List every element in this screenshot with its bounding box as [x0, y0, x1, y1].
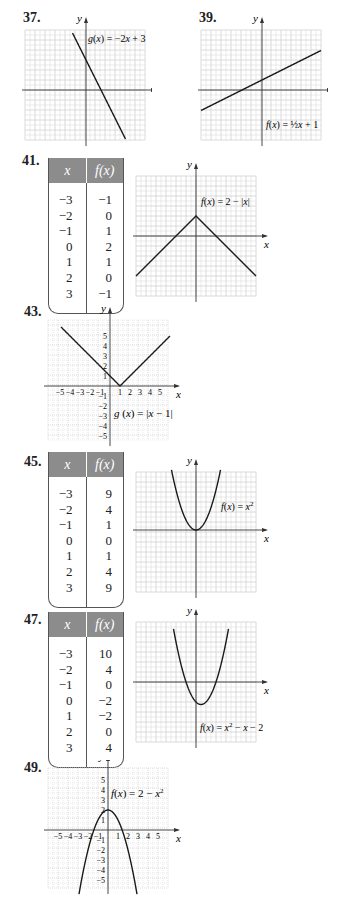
svg-text:2: 2 — [128, 388, 132, 397]
table-cell-x: 1 — [49, 548, 86, 564]
table-cell-fx: 9 — [87, 580, 124, 596]
table-header-fx: f(x) — [87, 452, 124, 477]
table-cell-fx: 1 — [87, 548, 124, 564]
table-cell-x: 2 — [49, 270, 86, 286]
table-cell-fx: 1 — [87, 517, 124, 533]
table-header-fx: f(x) — [87, 612, 124, 637]
svg-text:5: 5 — [156, 832, 160, 841]
value-table-45: xf(x)−3−2−101239410149 — [48, 452, 124, 608]
y-axis-label: y — [98, 760, 104, 762]
table-cell-fx: 0 — [87, 208, 124, 224]
table-cell-x: 3 — [49, 286, 86, 302]
svg-text:3: 3 — [101, 796, 105, 805]
y-axis-label: y — [100, 305, 106, 314]
problem-number-45: 45. — [24, 454, 42, 470]
x-axis-label: x — [175, 832, 181, 844]
table-cell-fx: 0 — [87, 270, 124, 286]
value-table-41: xf(x)−3−2−10123−101210−1 — [48, 158, 124, 314]
x-axis-label: x — [175, 388, 181, 400]
y-axis-label: y — [76, 12, 82, 24]
svg-text:−5: −5 — [54, 832, 63, 841]
svg-text:2: 2 — [126, 832, 130, 841]
table-cell-x: −3 — [49, 192, 86, 208]
equation-label: f(x) = 2 − |x| — [201, 196, 250, 208]
x-axis-label: x — [263, 684, 269, 696]
problem-number-47: 47. — [24, 612, 42, 628]
problem-number-41: 41. — [22, 153, 40, 169]
y-axis-label: y — [186, 454, 192, 466]
graph-problem-39: xyf(x) = ½x + 1 — [198, 12, 328, 147]
problem-number-43: 43. — [24, 304, 42, 320]
svg-text:−5: −5 — [56, 388, 65, 397]
value-table-47: xf(x)−3−2−101231040−2−204 — [48, 612, 124, 768]
table-cell-fx: 0 — [87, 677, 124, 693]
table-cell-fx: 0 — [87, 533, 124, 549]
table-cell-fx: −1 — [87, 192, 124, 208]
graph-problem-43: xy−5−4−3−2−11234554321−1−2−3−4−5g (x) = … — [40, 305, 185, 450]
table-cell-x: 3 — [49, 580, 86, 596]
table-cell-x: 2 — [49, 564, 86, 580]
svg-text:3: 3 — [138, 388, 142, 397]
y-axis-label: y — [186, 158, 192, 170]
table-cell-x: −3 — [49, 486, 86, 502]
svg-text:1: 1 — [101, 816, 105, 825]
equation-label: f(x) = ½x + 1 — [266, 119, 318, 131]
table-cell-x: −3 — [49, 646, 86, 662]
table-cell-x: −2 — [49, 662, 86, 678]
table-cell-x: 0 — [49, 239, 86, 255]
svg-text:1: 1 — [116, 832, 120, 841]
svg-text:−5: −5 — [98, 432, 107, 441]
svg-text:5: 5 — [158, 388, 162, 397]
svg-text:4: 4 — [103, 342, 107, 351]
problem-number-49: 49. — [24, 760, 42, 776]
table-cell-fx: −2 — [87, 708, 124, 724]
table-cell-fx: 10 — [87, 646, 124, 662]
equation-label: f(x) = 2 − x2 — [111, 787, 164, 800]
svg-text:3: 3 — [136, 832, 140, 841]
table-cell-fx: 4 — [87, 564, 124, 580]
svg-text:−4: −4 — [96, 866, 105, 875]
graph-problem-41: xyf(x) = 2 − |x| — [133, 158, 273, 303]
svg-text:3: 3 — [103, 352, 107, 361]
svg-text:1: 1 — [118, 388, 122, 397]
table-header-x: x — [49, 158, 87, 183]
equation-label: f(x) = x2 − x − 2 — [200, 721, 263, 734]
y-axis-label: y — [252, 12, 258, 24]
svg-text:4: 4 — [101, 786, 105, 795]
table-cell-fx: 2 — [87, 239, 124, 255]
table-cell-fx: 1 — [87, 254, 124, 270]
svg-text:−4: −4 — [98, 422, 107, 431]
table-cell-fx: 4 — [87, 502, 124, 518]
table-cell-x: −2 — [49, 502, 86, 518]
table-cell-fx: 4 — [87, 740, 124, 756]
svg-text:5: 5 — [103, 332, 107, 341]
svg-text:−3: −3 — [76, 388, 85, 397]
table-cell-x: −2 — [49, 208, 86, 224]
table-cell-fx: −2 — [87, 693, 124, 709]
table-cell-fx: 1 — [87, 223, 124, 239]
table-cell-x: −1 — [49, 223, 86, 239]
table-header-x: x — [49, 612, 87, 637]
svg-text:−3: −3 — [74, 832, 83, 841]
table-cell-x: 0 — [49, 533, 86, 549]
svg-text:−2: −2 — [86, 388, 95, 397]
table-cell-fx: 9 — [87, 486, 124, 502]
equation-label: g(x) = −2x + 3 — [88, 33, 146, 45]
table-cell-x: −1 — [49, 517, 86, 533]
table-cell-fx: −1 — [87, 286, 124, 302]
equation-label: g (x) = |x − 1| — [114, 407, 173, 420]
graph-problem-49: xy−5−4−3−2−11234554321−1−2−3−4−5f(x) = 2… — [40, 760, 185, 900]
svg-text:5: 5 — [101, 776, 105, 785]
svg-text:−3: −3 — [98, 412, 107, 421]
graph-problem-47: xyf(x) = x2 − x − 2 — [133, 608, 278, 753]
svg-text:−2: −2 — [96, 846, 105, 855]
function-curve — [61, 327, 170, 386]
function-curve — [73, 33, 126, 139]
svg-text:−4: −4 — [66, 388, 75, 397]
graph-problem-37: xyg(x) = −2x + 3 — [22, 12, 152, 147]
svg-text:4: 4 — [146, 832, 150, 841]
svg-text:−2: −2 — [98, 402, 107, 411]
y-axis-label: y — [186, 608, 192, 616]
svg-text:−4: −4 — [64, 832, 73, 841]
x-axis-label: x — [263, 532, 269, 544]
